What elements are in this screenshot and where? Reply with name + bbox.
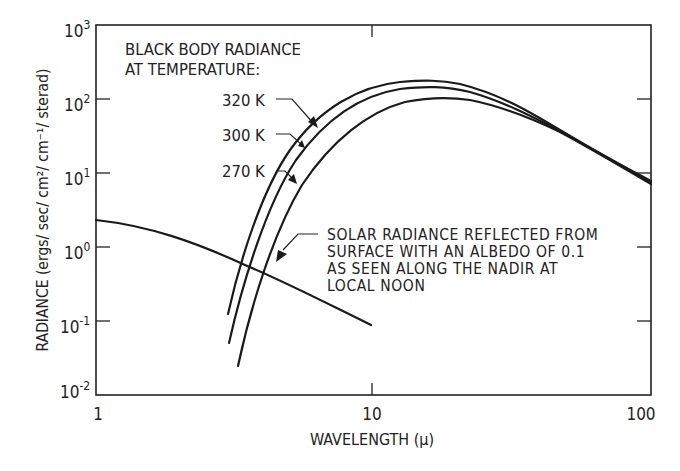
x-tick-10: 10 — [362, 404, 381, 424]
svg-text:BLACK BODY RADIANCE: BLACK BODY RADIANCE — [125, 40, 301, 59]
y-tick-1e1: 101 — [64, 166, 90, 189]
curve-320k — [228, 81, 651, 314]
y-ticks — [96, 25, 651, 395]
blackbody-annotation: BLACK BODY RADIANCE AT TEMPERATURE: 320 … — [125, 40, 301, 181]
label-300k: 300 K — [222, 126, 266, 145]
label-320k: 320 K — [222, 91, 266, 110]
svg-text:AT TEMPERATURE:: AT TEMPERATURE: — [125, 60, 260, 79]
y-tick-labels: 103 102 101 100 10-1 10-2 — [60, 18, 90, 402]
curve-300k — [229, 87, 651, 343]
y-axis-title: RADIANCE (ergs/ sec/ cm²/ cm⁻¹/ sterad) — [34, 69, 52, 352]
x-tick-100: 100 — [626, 404, 655, 424]
x-tick-labels: 1 10 100 — [93, 404, 655, 424]
svg-text:SOLAR RADIANCE REFLECTED FROM: SOLAR RADIANCE REFLECTED FROM — [327, 226, 598, 244]
x-axis-title: WAVELENGTH (μ) — [310, 430, 434, 449]
y-tick-1e2: 102 — [64, 92, 90, 115]
svg-text:LOCAL NOON: LOCAL NOON — [327, 277, 425, 295]
y-tick-1e-2: 10-2 — [60, 379, 90, 402]
svg-text:AS SEEN ALONG THE NADIR AT: AS SEEN ALONG THE NADIR AT — [327, 260, 558, 278]
svg-text:SURFACE WITH AN ALBEDO OF 0.1: SURFACE WITH AN ALBEDO OF 0.1 — [327, 243, 585, 261]
arrow-heads — [276, 116, 318, 262]
y-tick-1e3: 103 — [64, 18, 90, 41]
solar-annotation: SOLAR RADIANCE REFLECTED FROM SURFACE WI… — [327, 226, 598, 295]
radiance-chart: 103 102 101 100 10-1 10-2 1 10 100 WAVEL… — [0, 0, 680, 471]
y-tick-1e0: 100 — [64, 240, 90, 263]
curves — [96, 81, 651, 366]
plot-frame — [96, 25, 651, 395]
x-tick-1: 1 — [93, 404, 103, 424]
label-270k: 270 K — [222, 162, 266, 181]
y-tick-1e-1: 10-1 — [60, 314, 90, 337]
